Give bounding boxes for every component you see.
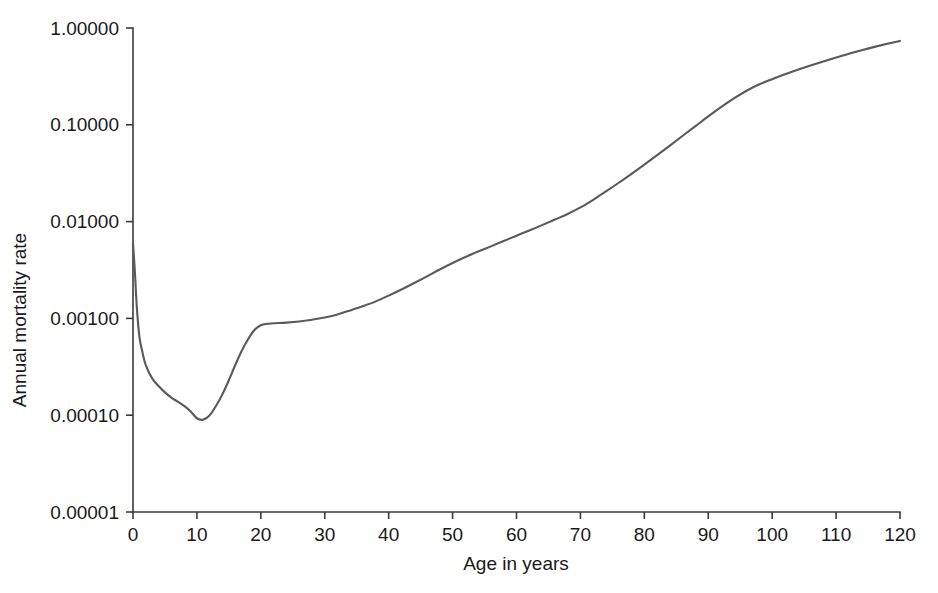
y-tick-label: 0.10000	[50, 114, 119, 135]
mortality-rate-chart: 1.000000.100000.010000.001000.000100.000…	[0, 0, 938, 593]
x-tick-label: 0	[128, 524, 139, 545]
x-tick-label: 120	[884, 524, 916, 545]
chart-canvas: 1.000000.100000.010000.001000.000100.000…	[0, 0, 938, 593]
y-tick-label: 0.00100	[50, 308, 119, 329]
x-tick-label: 10	[186, 524, 207, 545]
x-tick-label: 20	[250, 524, 271, 545]
x-tick-label: 110	[821, 524, 851, 545]
y-tick-label: 0.00001	[50, 502, 119, 523]
x-tick-label: 50	[442, 524, 463, 545]
x-tick-label: 40	[378, 524, 399, 545]
x-tick-label: 60	[506, 524, 527, 545]
x-tick-label: 90	[698, 524, 719, 545]
x-axis-title: Age in years	[463, 553, 569, 574]
x-tick-label: 30	[314, 524, 335, 545]
x-tick-label: 100	[756, 524, 788, 545]
y-tick-label: 1.00000	[50, 18, 119, 39]
y-tick-label: 0.00010	[50, 405, 119, 426]
x-axis-ticks: 0102030405060708090100110120	[128, 512, 916, 545]
y-axis-title: Annual mortality rate	[9, 233, 30, 407]
y-axis-ticks: 1.000000.100000.010000.001000.000100.000…	[50, 18, 133, 523]
mortality-curve	[133, 41, 900, 420]
y-tick-label: 0.01000	[50, 211, 119, 232]
x-tick-label: 80	[634, 524, 655, 545]
x-tick-label: 70	[570, 524, 591, 545]
